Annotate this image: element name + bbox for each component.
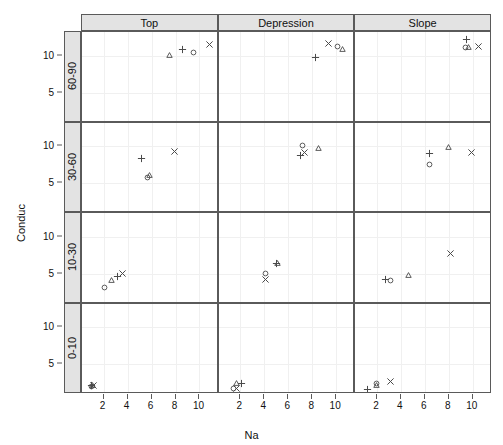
gridline-vertical: [176, 123, 177, 212]
panel-depression-60-90: [218, 31, 355, 122]
gridline-vertical: [401, 123, 402, 212]
y-tick-label: 5: [48, 267, 54, 278]
x-axis-label: Na: [0, 429, 503, 441]
y-tick-mark: [57, 363, 62, 364]
gridline-vertical: [264, 123, 265, 212]
gridline-horizontal: [219, 364, 354, 365]
gridline-vertical: [199, 304, 200, 393]
x-tick-mark: [239, 394, 240, 399]
x-tick-label: 4: [260, 400, 266, 411]
data-point-cross: [169, 146, 180, 157]
panel-slope-60-90: [354, 31, 491, 122]
gridline-vertical: [264, 32, 265, 121]
gridline-vertical: [240, 123, 241, 212]
column-strip-top: Top: [81, 14, 218, 31]
panel-slope-30-60: [354, 122, 491, 213]
data-point-triangle: [106, 275, 117, 286]
x-tick-label: 10: [193, 400, 204, 411]
gridline-vertical: [473, 32, 474, 121]
gridline-horizontal: [82, 364, 217, 365]
gridline-vertical: [152, 32, 153, 121]
gridline-vertical: [152, 123, 153, 212]
row-strip-label: 60-90: [67, 62, 79, 90]
row-strip-10-30: 10-30: [64, 212, 81, 303]
gridline-vertical: [377, 32, 378, 121]
data-point-triangle: [272, 258, 283, 269]
gridline-horizontal: [355, 237, 490, 238]
gridline-horizontal: [219, 56, 354, 57]
data-point-cross: [299, 147, 310, 158]
gridline-vertical: [401, 304, 402, 393]
gridline-vertical: [176, 304, 177, 393]
gridline-horizontal: [82, 274, 217, 275]
gridline-vertical: [449, 304, 450, 393]
data-point-plus: [136, 153, 147, 164]
gridline-vertical: [240, 213, 241, 302]
y-tick-mark: [57, 145, 62, 146]
x-tick-label: 2: [100, 400, 106, 411]
gridline-horizontal: [82, 327, 217, 328]
x-tick-label: 2: [236, 400, 242, 411]
x-tick-label: 8: [308, 400, 314, 411]
gridline-vertical: [336, 213, 337, 302]
x-tick-mark: [127, 394, 128, 399]
data-point-triangle: [403, 270, 414, 281]
gridline-vertical: [288, 123, 289, 212]
x-tick-mark: [287, 394, 288, 399]
data-point-circle: [385, 275, 396, 286]
gridline-vertical: [199, 32, 200, 121]
gridline-horizontal: [82, 56, 217, 57]
y-tick-mark: [57, 326, 62, 327]
data-point-circle: [460, 42, 471, 53]
gridline-vertical: [449, 32, 450, 121]
gridline-vertical: [425, 32, 426, 121]
y-tick-mark: [57, 272, 62, 273]
panel-matrix: TopDepressionSlope60-9030-6010-300-10: [64, 14, 491, 393]
gridline-horizontal: [82, 237, 217, 238]
gridline-vertical: [152, 213, 153, 302]
y-tick-label: 5: [48, 86, 54, 97]
data-point-triangle: [144, 170, 155, 181]
x-tick-label: 10: [466, 400, 477, 411]
x-tick-mark: [376, 394, 377, 399]
row-strip-60-90: 60-90: [64, 31, 81, 122]
data-point-triangle: [87, 380, 98, 391]
y-tick-label: 10: [43, 230, 54, 241]
y-tick-mark: [57, 54, 62, 55]
row-strip-30-60: 30-60: [64, 122, 81, 213]
x-tick-mark: [448, 394, 449, 399]
panel-depression-30-60: [218, 122, 355, 213]
panel-slope-10-30: [354, 212, 491, 303]
y-tick-label: 10: [43, 321, 54, 332]
data-point-circle: [86, 381, 97, 392]
gridline-horizontal: [219, 183, 354, 184]
gridline-vertical: [449, 123, 450, 212]
gridline-vertical: [240, 32, 241, 121]
gridline-horizontal: [219, 274, 354, 275]
gridline-vertical: [377, 123, 378, 212]
row-strip-0-10: 0-10: [64, 303, 81, 394]
gridline-horizontal: [219, 93, 354, 94]
gridline-vertical: [176, 213, 177, 302]
x-tick-mark: [335, 394, 336, 399]
y-axis-60-90: 510: [18, 31, 62, 122]
gridline-vertical: [288, 213, 289, 302]
row-strip-label: 0-10: [67, 337, 79, 359]
gridline-vertical: [473, 304, 474, 393]
data-point-cross: [260, 274, 271, 285]
data-point-plus: [461, 34, 472, 45]
gridline-vertical: [425, 123, 426, 212]
gridline-vertical: [401, 213, 402, 302]
data-point-plus: [271, 258, 282, 269]
gridline-vertical: [425, 213, 426, 302]
gridline-vertical: [152, 304, 153, 393]
data-point-circle: [332, 41, 343, 52]
panel-slope-0-10: [354, 303, 491, 394]
y-axis-30-60: 510: [18, 122, 62, 213]
data-point-cross: [445, 248, 456, 259]
trellis-scatter-plot-matrix: Conduc Na TopDepressionSlope60-9030-6010…: [0, 0, 503, 445]
data-point-cross: [88, 380, 99, 391]
row-strip-label: 30-60: [67, 153, 79, 181]
gridline-vertical: [336, 304, 337, 393]
panel-top-60-90: [81, 31, 218, 122]
